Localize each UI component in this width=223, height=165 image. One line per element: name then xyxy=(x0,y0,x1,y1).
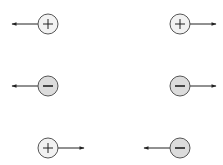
negative-charge xyxy=(170,76,216,96)
negative-charge xyxy=(12,76,58,96)
positive-charge xyxy=(12,14,58,34)
charges-layer xyxy=(12,14,216,158)
charge-diagram xyxy=(0,0,223,165)
positive-charge xyxy=(170,14,216,34)
negative-charge xyxy=(144,138,190,158)
positive-charge xyxy=(38,138,84,158)
